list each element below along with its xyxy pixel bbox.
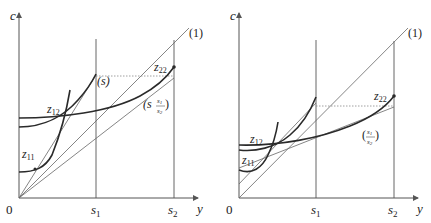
left-z12-label: z12: [46, 102, 60, 117]
right-z11-label: z11: [241, 153, 254, 168]
right-line-1-label: (1): [408, 26, 422, 40]
right-y-axis-label: c: [230, 8, 236, 23]
svg-text:s1: s1: [157, 97, 162, 105]
svg-text:s2: s2: [367, 138, 373, 146]
left-z22-label: z22: [153, 60, 167, 75]
left-point-z11: [34, 168, 37, 171]
right-z12-label: z12: [249, 132, 263, 147]
left-line-1: [19, 28, 189, 198]
svg-text:s1: s1: [367, 128, 372, 136]
left-x-axis-label: y: [195, 201, 203, 216]
left-y-axis-label: c: [10, 8, 16, 23]
left-origin-label: 0: [6, 202, 13, 217]
svg-text:): ): [375, 128, 379, 142]
diagram-canvas: c y 0 s1 s2 (1) (s) (s s1 s2 ) z11 z12 z…: [0, 0, 431, 223]
left-s2-label: s2: [168, 202, 178, 219]
right-s1-label: s1: [311, 202, 321, 219]
left-line-1-label: (1): [189, 26, 203, 40]
left-line-s-ratio: [19, 78, 174, 198]
left-s1-label: s1: [91, 202, 101, 219]
left-point-z22: [172, 65, 176, 69]
svg-text:s2: s2: [157, 107, 163, 115]
right-origin-label: 0: [226, 202, 233, 217]
svg-text:(: (: [362, 128, 366, 142]
left-curve-z12-steep: [19, 74, 96, 127]
left-line-s-label: (s): [97, 74, 110, 88]
svg-text:(s: (s: [143, 97, 152, 111]
left-panel: c y 0 s1 s2 (1) (s) (s s1 s2 ) z11 z12 z…: [6, 8, 203, 219]
right-line-ratio-label: ( s1 s2 ): [362, 128, 379, 146]
right-panel: c y 0 s1 s2 (1) ( s1 s2 ) z11 z12 z22: [226, 8, 423, 219]
left-line-s-ratio-label: (s s1 s2 ): [143, 97, 169, 115]
right-s2-label: s2: [388, 202, 398, 219]
right-line-1: [239, 28, 408, 198]
left-z11-label: z11: [21, 147, 34, 162]
right-x-axis-label: y: [415, 201, 423, 216]
right-z22-label: z22: [373, 89, 387, 104]
svg-text:): ): [165, 97, 169, 111]
right-point-z22: [392, 94, 396, 98]
